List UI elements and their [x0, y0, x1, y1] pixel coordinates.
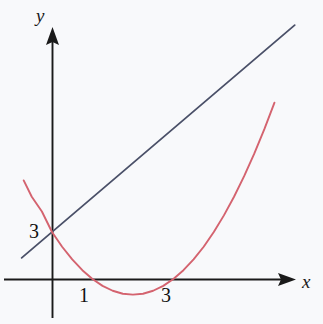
- y-tick-label-3: 3: [29, 221, 39, 241]
- plot-canvas: [0, 0, 323, 324]
- x-axis-label: x: [302, 272, 310, 291]
- math-figure: y x 3 1 3: [0, 0, 323, 324]
- figure-background: [0, 0, 323, 324]
- y-axis-label: y: [36, 6, 44, 25]
- x-tick-label-1: 1: [79, 285, 89, 305]
- x-tick-label-3: 3: [161, 285, 171, 305]
